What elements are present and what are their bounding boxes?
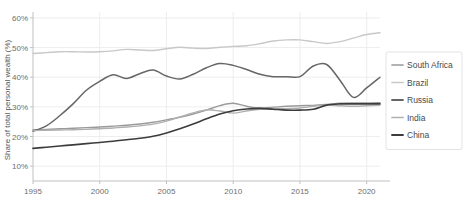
legend-label-brazil[interactable]: Brazil: [407, 78, 428, 88]
x-tick-label: 2005: [158, 187, 176, 196]
x-tick-label: 1995: [24, 187, 42, 196]
y-tick-label: 40%: [12, 73, 28, 82]
legend-label-india[interactable]: India: [407, 113, 426, 123]
y-tick-label: 30%: [12, 103, 28, 112]
x-tick-label: 2010: [224, 187, 242, 196]
x-axis-tick-labels: 199520002005201020152020: [24, 181, 376, 196]
y-axis-title: Share of total personal wealth (%): [3, 39, 12, 160]
y-tick-label: 10%: [12, 162, 28, 171]
line-chart: 10%20%30%40%50%60% 199520002005201020152…: [0, 0, 464, 212]
y-axis-tick-labels: 10%20%30%40%50%60%: [12, 14, 33, 171]
y-tick-label: 20%: [12, 133, 28, 142]
series-line-india: [33, 105, 380, 131]
x-tick-label: 2000: [91, 187, 109, 196]
series-lines: [33, 33, 380, 149]
chart-container: 10%20%30%40%50%60% 199520002005201020152…: [0, 0, 464, 212]
legend-label-russia[interactable]: Russia: [407, 95, 433, 105]
series-line-brazil: [33, 33, 380, 54]
series-line-russia: [33, 63, 380, 131]
gridlines: [33, 12, 380, 181]
legend[interactable]: South AfricaBrazilRussiaIndiaChina: [386, 52, 462, 150]
x-tick-label: 2020: [358, 187, 376, 196]
y-tick-label: 50%: [12, 44, 28, 53]
x-tick-label: 2015: [291, 187, 309, 196]
y-tick-label: 60%: [12, 14, 28, 23]
legend-label-china[interactable]: China: [407, 130, 429, 140]
legend-label-south-africa[interactable]: South Africa: [407, 60, 453, 70]
